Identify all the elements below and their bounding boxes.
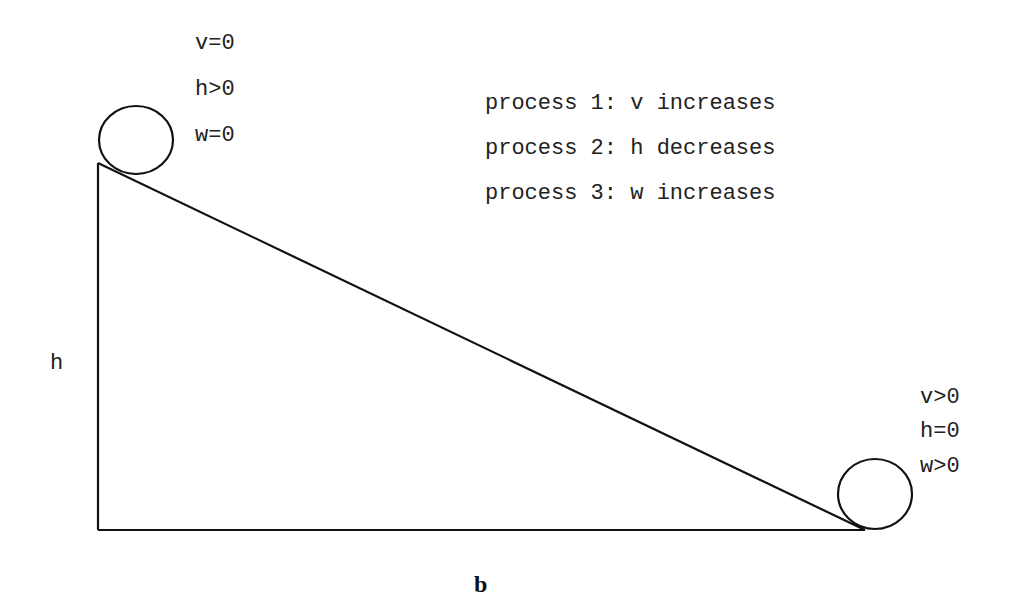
hypotenuse bbox=[98, 163, 865, 530]
ball-end bbox=[838, 459, 912, 529]
end-state-v: v>0 bbox=[920, 385, 960, 410]
end-state-h: h=0 bbox=[920, 419, 960, 444]
inclined-plane bbox=[98, 163, 865, 530]
end-state-labels: v>0 h=0 w>0 bbox=[920, 385, 960, 479]
base-label: b bbox=[474, 571, 487, 597]
inclined-plane-diagram: v=0 h>0 w=0 process 1: v increases proce… bbox=[0, 0, 1017, 610]
ball-start bbox=[99, 106, 173, 174]
start-state-h: h>0 bbox=[195, 77, 235, 102]
start-state-v: v=0 bbox=[195, 31, 235, 56]
process-2: process 2: h decreases bbox=[485, 136, 775, 161]
process-1: process 1: v increases bbox=[485, 91, 775, 116]
process-list: process 1: v increases process 2: h decr… bbox=[485, 91, 775, 206]
process-3: process 3: w increases bbox=[485, 181, 775, 206]
start-state-labels: v=0 h>0 w=0 bbox=[195, 31, 235, 148]
start-state-w: w=0 bbox=[195, 123, 235, 148]
end-state-w: w>0 bbox=[920, 454, 960, 479]
height-label: h bbox=[50, 351, 63, 376]
